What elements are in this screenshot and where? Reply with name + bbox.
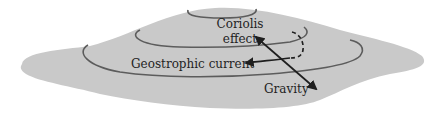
- gravity-label: Gravity: [264, 82, 309, 96]
- geostrophic-current-label: Geostrophic current: [131, 57, 254, 71]
- coriolis-label-line2: effect: [223, 32, 257, 46]
- ocean-gyre-diagram: Coriolis effect Geostrophic current Grav…: [0, 0, 446, 119]
- coriolis-label-line1: Coriolis: [216, 17, 263, 31]
